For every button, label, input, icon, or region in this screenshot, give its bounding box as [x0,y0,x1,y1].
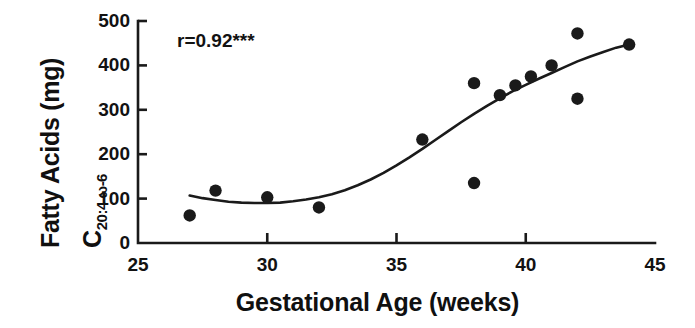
x-axis-tick-label: 40 [486,254,566,276]
scatter-plot-figure: Fatty Acids (mg) C20:4 ω-6 r=0.92*** 010… [0,0,695,328]
x-axis-tick-label: 30 [227,254,307,276]
data-point [184,209,196,221]
x-axis-tick-label: 35 [357,254,437,276]
data-point [261,191,273,203]
data-point [416,133,428,145]
y-axis-tick-label: 0 [72,232,130,254]
data-point [468,177,480,189]
data-point [571,93,583,105]
y-axis-tick-label: 300 [72,99,130,121]
y-axis-tick-label: 200 [72,143,130,165]
data-point [623,38,635,50]
x-axis-tick-label: 45 [615,254,695,276]
data-point [509,79,521,91]
data-point [525,70,537,82]
data-point [209,184,221,196]
data-point [313,201,325,213]
data-point [545,59,557,71]
data-point [468,77,480,89]
data-point [494,89,506,101]
y-axis-tick-label: 500 [72,10,130,32]
data-point [571,27,583,39]
x-axis-label: Gestational Age (weeks) [0,288,695,317]
x-axis-tick-label: 25 [98,254,178,276]
axis-spine [138,21,655,243]
regression-curve [190,45,629,204]
y-axis-tick-label: 100 [72,188,130,210]
y-axis-tick-label: 400 [72,54,130,76]
